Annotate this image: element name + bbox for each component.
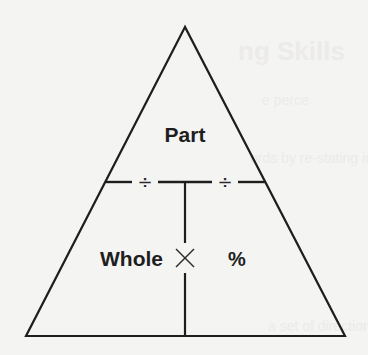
divide-sign-left: ÷ xyxy=(137,171,152,192)
triangle-diagram: ÷ ÷ Part Whole % xyxy=(0,0,368,355)
label-part: Part xyxy=(165,123,206,146)
divide-sign-right: ÷ xyxy=(217,171,232,192)
multiply-sign xyxy=(176,249,194,267)
percent-triangle-figure: ng Skills e perce ords by re-stating inf… xyxy=(0,0,368,355)
label-whole: Whole xyxy=(100,247,163,270)
label-percent: % xyxy=(228,248,246,270)
